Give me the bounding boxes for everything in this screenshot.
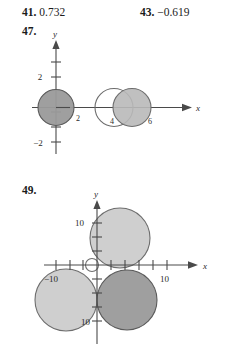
- y-tick-label-neg10: 10: [81, 317, 91, 327]
- x-axis-label-49: x: [202, 261, 207, 271]
- figure-47: y 2 −2 x 2 4 6: [22, 36, 212, 161]
- x-annotation-2: 2: [76, 114, 80, 123]
- x-annotation-6: 6: [148, 117, 152, 126]
- answer-43: 43. −0.619: [140, 6, 190, 18]
- answer-43-number: 43.: [140, 6, 154, 18]
- answer-41-value: 0.732: [39, 6, 65, 18]
- chart-49: y 10 10 x −10 10: [38, 192, 228, 347]
- answer-43-value: −0.619: [157, 6, 189, 18]
- y-tick-label-neg2: −2: [33, 138, 43, 148]
- x-tick-label-neg10: −10: [44, 274, 59, 284]
- circle-right-shaded: [113, 89, 151, 127]
- answer-41-number: 41.: [22, 6, 36, 18]
- textbook-page: 41. 0.732 43. −0.619 47. y 2 −2: [0, 0, 236, 349]
- circle-lower-right: [97, 270, 157, 330]
- x-annotation-4: 4: [110, 117, 114, 126]
- y-axis-label-47: y: [52, 29, 57, 39]
- exercise-number-49: 49.: [22, 184, 36, 196]
- chart-47: y 2 −2 x 2 4 6: [22, 36, 212, 161]
- figure-49: y 10 10 x −10 10: [38, 192, 228, 347]
- answer-41: 41. 0.732: [22, 6, 65, 18]
- y-tick-label-10: 10: [75, 218, 85, 228]
- y-tick-label-2: 2: [38, 72, 43, 82]
- x-tick-label-10: 10: [160, 274, 170, 284]
- x-axis-label-47: x: [195, 103, 200, 113]
- circle-upper-right: [90, 208, 150, 268]
- answer-row: 41. 0.732 43. −0.619: [0, 6, 236, 24]
- y-axis-label-49: y: [93, 189, 98, 199]
